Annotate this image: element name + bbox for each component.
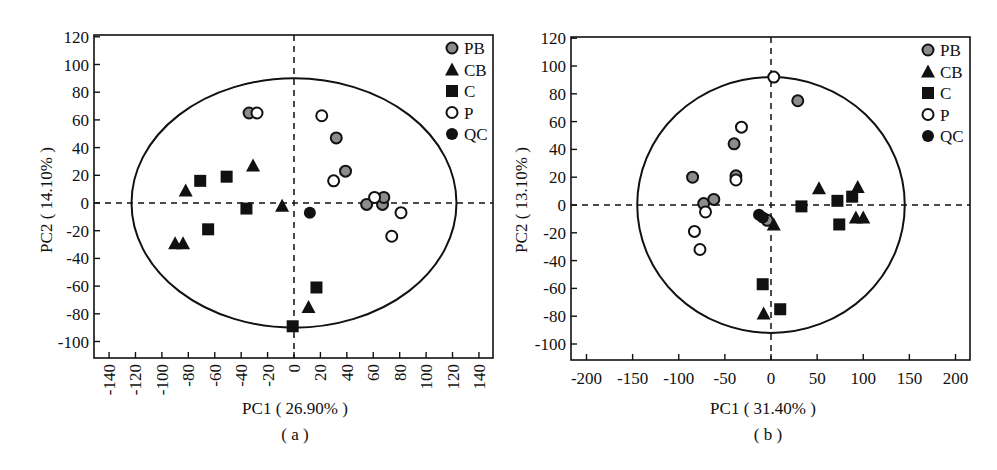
x-tick-label: -20 — [259, 364, 278, 387]
y-tick-label: 40 — [549, 140, 566, 159]
data-point-p — [386, 231, 397, 242]
y-tick-label: -60 — [66, 277, 89, 296]
x-tick-label: 20 — [311, 364, 330, 381]
x-tick-label: -80 — [179, 364, 198, 387]
data-point-pb — [792, 95, 803, 106]
data-point-p — [369, 192, 380, 203]
data-point-p — [316, 110, 327, 121]
y-tick-label: 60 — [72, 111, 89, 130]
legend-label-p: P — [940, 106, 949, 125]
data-point-p — [768, 72, 779, 83]
legend-label-c: C — [464, 82, 475, 101]
data-point-p — [700, 206, 711, 217]
data-point-c — [221, 171, 233, 183]
series-p — [252, 107, 407, 241]
data-point-c — [202, 223, 214, 235]
x-tick-label: 50 — [809, 369, 826, 388]
legend-marker-pb — [447, 43, 458, 54]
data-point-c — [194, 175, 206, 187]
y-tick-label: 20 — [72, 166, 89, 185]
legend-marker-c — [446, 85, 458, 97]
series-qc — [304, 207, 316, 219]
legend-marker-p — [923, 109, 934, 120]
chart-panel-a: 120100806040200-20-40-60-80-100-140-120-… — [37, 28, 493, 444]
y-tick-label: 100 — [541, 57, 567, 76]
y-tick-label: 120 — [541, 29, 567, 48]
x-tick-label: -40 — [232, 364, 251, 387]
data-point-pb — [331, 132, 342, 143]
data-point-p — [736, 122, 747, 133]
data-point-cb — [302, 300, 316, 313]
data-point-cb — [757, 306, 771, 319]
y-tick-label: -20 — [543, 224, 566, 243]
data-point-c — [310, 281, 322, 293]
legend-label-pb: PB — [464, 39, 485, 58]
x-tick-label: 100 — [851, 369, 877, 388]
data-point-qc — [304, 207, 316, 219]
series-pb — [244, 107, 390, 209]
data-point-p — [689, 226, 700, 237]
data-point-p — [694, 244, 705, 255]
y-tick-label: 120 — [64, 28, 90, 47]
panel-label: ( a ) — [281, 425, 308, 444]
x-tick-label: 120 — [444, 364, 463, 390]
legend-marker-p — [447, 107, 458, 118]
x-tick-label: 200 — [943, 369, 969, 388]
y-tick-label: -60 — [543, 279, 566, 298]
x-tick-label: 80 — [391, 364, 410, 381]
data-point-c — [287, 320, 299, 332]
y-tick-label: -20 — [66, 222, 89, 241]
series-c — [194, 171, 322, 333]
data-point-c — [833, 218, 845, 230]
series-c — [757, 191, 858, 316]
y-tick-label: -40 — [543, 252, 566, 271]
legend-marker-qc — [446, 128, 458, 140]
data-point-p — [396, 207, 407, 218]
x-tick-label: 0 — [767, 369, 776, 388]
y-tick-label: -80 — [66, 305, 89, 324]
x-tick-label: -60 — [206, 364, 225, 387]
chart-panel-b: 120100806040200-20-40-60-80-100-200-150-… — [512, 29, 970, 444]
data-point-p — [252, 107, 263, 118]
y-axis-label: PC2 ( 14.10% ) — [37, 147, 56, 253]
panel-label: ( b ) — [754, 425, 782, 444]
legend-marker-cb — [445, 63, 459, 76]
legend-label-qc: QC — [464, 125, 488, 144]
x-tick-label: -50 — [714, 369, 737, 388]
data-point-c — [757, 278, 769, 290]
x-tick-label: -120 — [126, 364, 145, 395]
y-tick-label: 60 — [549, 113, 566, 132]
y-tick-label: -40 — [66, 249, 89, 268]
data-point-c — [774, 303, 786, 315]
x-tick-label: 100 — [417, 364, 436, 390]
y-tick-label: -100 — [58, 333, 89, 352]
legend-marker-qc — [922, 130, 934, 142]
y-tick-label: -100 — [535, 335, 566, 354]
legend-label-cb: CB — [464, 61, 487, 80]
legend: PBCBCPQC — [445, 39, 488, 144]
y-tick-label: 0 — [558, 196, 567, 215]
figure-canvas: 120100806040200-20-40-60-80-100-140-120-… — [0, 0, 997, 470]
data-point-p — [328, 175, 339, 186]
legend-label-pb: PB — [940, 41, 961, 60]
data-point-cb — [246, 159, 260, 172]
series-qc — [753, 209, 769, 224]
series-p — [689, 72, 779, 255]
x-tick-label: 0 — [285, 364, 304, 373]
x-tick-label: -100 — [663, 369, 694, 388]
data-point-cb — [275, 199, 289, 212]
x-tick-label: 40 — [338, 364, 357, 381]
data-point-pb — [729, 138, 740, 149]
y-tick-label: 100 — [64, 56, 90, 75]
y-tick-label: 80 — [549, 85, 566, 104]
legend-label-p: P — [464, 104, 473, 123]
x-tick-label: -150 — [617, 369, 648, 388]
legend-marker-cb — [921, 65, 935, 78]
legend-label-qc: QC — [940, 127, 964, 146]
x-tick-label: -200 — [571, 369, 602, 388]
data-point-pb — [708, 194, 719, 205]
y-tick-label: 20 — [549, 168, 566, 187]
legend-label-cb: CB — [940, 63, 963, 82]
data-point-p — [730, 174, 741, 185]
data-point-pb — [340, 166, 351, 177]
